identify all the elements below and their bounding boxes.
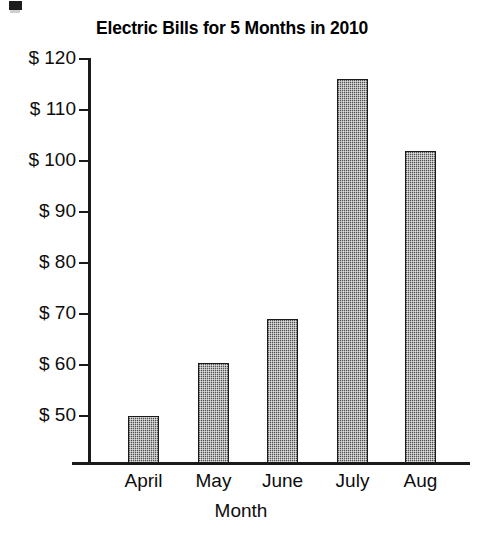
y-tick-label-110: $ 110 [0,98,76,120]
y-tick-100 [79,160,91,162]
y-tick-80 [79,262,91,264]
y-tick-120 [79,58,91,60]
y-tick-label-70: $ 70 [0,302,76,324]
y-tick-label-120: $ 120 [0,47,76,69]
bar-may [198,363,229,463]
y-tick-label-wrap-50: $ 50 [0,404,76,426]
y-tick-70 [79,313,91,315]
y-tick-label-wrap-90: $ 90 [0,200,76,222]
y-tick-label-wrap-100: $ 100 [0,149,76,171]
bar-april [128,416,159,463]
bar-july [337,79,368,463]
y-tick-label-wrap-110: $ 110 [0,98,76,120]
y-tick-label-wrap-80: $ 80 [0,251,76,273]
bar-aug [405,151,436,463]
y-tick-label-wrap-70: $ 70 [0,302,76,324]
x-tick-label-aug: Aug [376,470,466,492]
x-axis-title: Month [0,500,482,522]
y-tick-60 [79,364,91,366]
y-tick-label-80: $ 80 [0,251,76,273]
y-tick-label-90: $ 90 [0,200,76,222]
y-tick-110 [79,109,91,111]
y-tick-label-60: $ 60 [0,353,76,375]
y-tick-label-wrap-120: $ 120 [0,47,76,69]
y-tick-50 [79,415,91,417]
bar-june [267,319,298,463]
y-tick-90 [79,211,91,213]
y-tick-label-100: $ 100 [0,149,76,171]
bar-chart-figure: Electric Bills for 5 Months in 2010 $ 50… [0,0,482,541]
y-tick-label-wrap-60: $ 60 [0,353,76,375]
y-tick-label-50: $ 50 [0,404,76,426]
plot-area: $ 50$ 60$ 70$ 80$ 90$ 100$ 110$ 120 Apri… [0,0,482,541]
